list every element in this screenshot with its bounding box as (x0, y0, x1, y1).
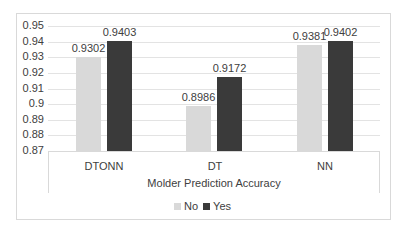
bar-dtonn-yes (107, 41, 132, 151)
y-tick-label: 0.93 (14, 51, 44, 62)
legend-label-yes: Yes (213, 200, 231, 212)
x-axis-title: Molder Prediction Accuracy (48, 177, 380, 189)
data-label: 0.9403 (95, 27, 145, 38)
y-tick-label: 0.9 (14, 98, 44, 109)
bar-nn-no (297, 45, 322, 151)
plot-area: 0.93020.94030.89860.91720.93810.9402 (48, 26, 380, 151)
y-tick-label: 0.87 (14, 145, 44, 156)
y-tick-label: 0.92 (14, 67, 44, 78)
y-tick-label: 0.94 (14, 36, 44, 47)
y-tick-label: 0.95 (14, 20, 44, 31)
legend: No Yes (0, 200, 405, 212)
bar-dt-yes (217, 77, 242, 151)
x-category-nn: NN (270, 160, 380, 172)
legend-swatch-no-icon (174, 203, 181, 210)
legend-label-no: No (184, 200, 198, 212)
y-tick-label: 0.89 (14, 114, 44, 125)
data-label: 0.8986 (174, 92, 224, 103)
x-category-dtonn: DTONN (49, 160, 159, 172)
data-label: 0.9302 (64, 43, 114, 54)
legend-swatch-yes-icon (203, 203, 210, 210)
data-label: 0.9172 (205, 63, 255, 74)
legend-item-no: No (174, 200, 198, 212)
y-tick-label: 0.91 (14, 83, 44, 94)
bar-nn-yes (328, 41, 353, 151)
legend-item-yes: Yes (203, 200, 231, 212)
x-category-dt: DT (160, 160, 270, 172)
data-label: 0.9402 (316, 27, 366, 38)
y-tick-label: 0.88 (14, 129, 44, 140)
bar-dtonn-no (76, 57, 101, 151)
bar-dt-no (186, 106, 211, 151)
